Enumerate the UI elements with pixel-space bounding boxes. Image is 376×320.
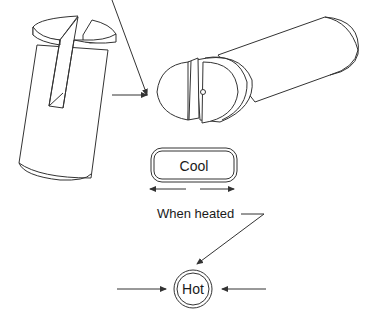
cool-label: Cool [180, 158, 209, 174]
when-heated-label: When heated [157, 206, 234, 221]
hot-state-shape: Hot [174, 270, 212, 308]
heated-arrow [197, 214, 264, 264]
shape-memory-diagram: Cool When heated Hot [0, 0, 376, 320]
cool-state-shape: Cool [151, 148, 237, 182]
hot-label: Hot [182, 281, 204, 297]
horizontal-slotted-cylinder [157, 17, 358, 123]
transform-arrow [112, 0, 147, 95]
vertical-slotted-cylinder [19, 16, 116, 180]
